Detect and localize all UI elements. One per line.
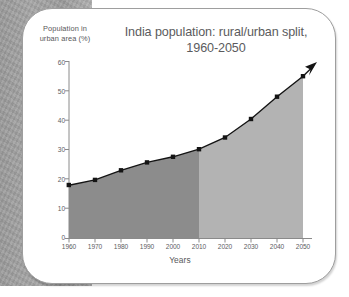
x-axis-ticks xyxy=(69,239,303,243)
data-point-1970 xyxy=(93,178,97,182)
data-point-2020 xyxy=(223,135,227,139)
data-point-1990 xyxy=(145,160,149,164)
data-point-2000 xyxy=(171,155,175,159)
data-point-2030 xyxy=(249,117,253,121)
data-point-1980 xyxy=(119,168,123,172)
area-observed xyxy=(69,149,199,238)
data-point-2040 xyxy=(275,95,279,99)
chart-figure: Population in urban area (%) India popul… xyxy=(0,0,349,297)
data-point-2010 xyxy=(197,147,201,151)
area-projected xyxy=(199,76,303,238)
plot-canvas xyxy=(0,0,349,297)
data-point-2050 xyxy=(301,74,305,78)
data-point-1960 xyxy=(67,183,71,187)
y-axis-ticks xyxy=(65,62,69,239)
